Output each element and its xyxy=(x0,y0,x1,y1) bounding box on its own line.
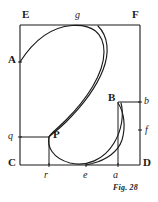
label-f: f xyxy=(145,125,148,135)
label-e: e xyxy=(83,170,87,180)
label-B: B xyxy=(108,92,115,103)
auxiliary-rectangle-right-Bba xyxy=(118,102,140,165)
label-g: g xyxy=(75,10,80,20)
label-F: F xyxy=(132,9,139,20)
frame-rectangle xyxy=(20,25,140,165)
figure-caption: Fig. 28 xyxy=(113,183,138,192)
label-E: E xyxy=(22,9,29,20)
figure-drawing-canvas xyxy=(0,0,158,202)
label-A: A xyxy=(8,54,16,65)
label-q: q xyxy=(8,131,13,141)
label-C: C xyxy=(8,157,16,168)
label-D: D xyxy=(143,157,151,168)
figure-28-diagram: E F g A B b f q P C D r e a Fig. 28 xyxy=(0,0,158,202)
label-P: P xyxy=(53,129,60,140)
auxiliary-rectangle-left-qPr xyxy=(20,137,49,165)
upper-loop-descending-branch xyxy=(49,26,107,137)
label-b: b xyxy=(144,96,149,106)
label-a: a xyxy=(113,170,118,180)
label-r: r xyxy=(44,170,48,180)
